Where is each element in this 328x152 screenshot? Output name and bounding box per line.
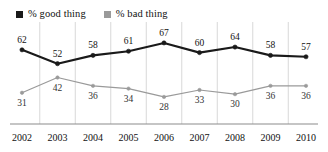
x-tick-label: 2002 [12, 133, 32, 143]
data-point [126, 49, 130, 53]
data-point [304, 84, 307, 87]
value-label: 36 [88, 92, 98, 102]
data-point [91, 84, 94, 87]
data-point [20, 91, 23, 94]
value-label: 30 [230, 100, 240, 110]
value-label: 33 [195, 96, 205, 106]
data-point [233, 45, 237, 49]
series-line-good-thing [22, 43, 306, 64]
value-label: 64 [230, 33, 240, 43]
data-point [20, 48, 24, 52]
value-label: 36 [266, 92, 276, 102]
legend-swatch-bad-thing [104, 11, 111, 18]
data-point [91, 53, 95, 57]
value-label: 31 [17, 99, 27, 109]
plot-area: 625258616760645857314236342833303636 [0, 22, 328, 130]
x-tick-label: 2004 [83, 133, 103, 143]
value-label: 60 [195, 39, 205, 49]
legend-item-good-thing: % good thing [16, 9, 86, 20]
data-point [304, 55, 308, 59]
series-line-bad-thing [22, 78, 306, 97]
value-label: 67 [159, 29, 169, 39]
data-point [198, 88, 201, 91]
legend-item-bad-thing: % bad thing [104, 9, 168, 20]
x-tick-label: 2005 [119, 133, 139, 143]
data-point [162, 41, 166, 45]
data-point [269, 84, 272, 87]
x-tick-label: 2010 [296, 133, 316, 143]
data-point [162, 95, 165, 98]
value-label: 28 [159, 103, 169, 113]
value-label: 36 [301, 92, 311, 102]
legend-swatch-good-thing [16, 11, 23, 18]
value-label: 61 [124, 37, 134, 47]
value-label: 34 [124, 95, 134, 105]
value-label: 57 [301, 43, 311, 53]
data-point [197, 51, 201, 55]
x-tick-label: 2003 [48, 133, 68, 143]
value-label: 52 [53, 50, 63, 60]
data-point [268, 53, 272, 57]
value-label: 62 [17, 36, 27, 46]
x-tick-label: 2007 [190, 133, 210, 143]
data-point [233, 92, 236, 95]
x-tick-label: 2009 [261, 133, 281, 143]
value-label: 58 [266, 41, 276, 51]
line-chart: % good thing % bad thing 625258616760645… [0, 0, 328, 152]
data-point [127, 87, 130, 90]
value-label: 42 [53, 84, 63, 94]
value-label: 58 [88, 41, 98, 51]
x-axis: 200220032004200520062007200820092010 [0, 130, 328, 150]
x-tick-label: 2006 [154, 133, 174, 143]
data-point [55, 62, 59, 66]
legend-label-good-thing: % good thing [28, 9, 86, 20]
legend-label-bad-thing: % bad thing [116, 9, 168, 20]
chart-legend: % good thing % bad thing [16, 6, 168, 22]
x-tick-label: 2008 [225, 133, 245, 143]
data-point [56, 76, 59, 79]
